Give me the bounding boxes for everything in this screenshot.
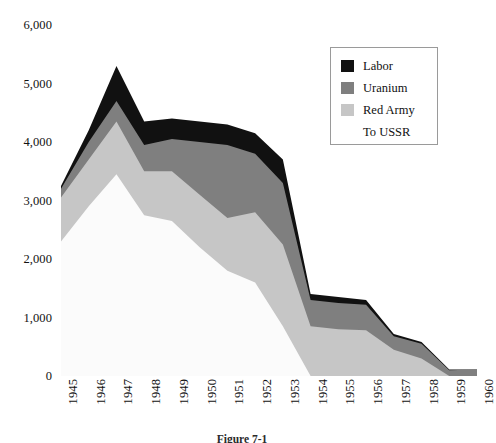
x-tick-label: 1955 xyxy=(343,379,357,429)
legend-label: Labor xyxy=(363,60,393,73)
y-tick-label: 6,000 xyxy=(0,19,52,32)
x-tick-label: 1958 xyxy=(427,379,441,429)
x-tick-label: 1954 xyxy=(316,379,330,429)
legend-swatch-icon xyxy=(341,82,354,94)
x-tick-label: 1953 xyxy=(288,379,302,429)
legend-swatch-icon xyxy=(341,104,354,116)
legend-label: Uranium xyxy=(363,82,407,95)
legend-label: Red Army xyxy=(363,104,415,117)
figure-caption: Figure 7-1 xyxy=(0,433,484,443)
y-tick-label: 3,000 xyxy=(0,195,52,208)
y-axis: 6,0005,0004,0003,0002,0001,0000 xyxy=(0,0,58,443)
x-tick-label: 1948 xyxy=(149,379,163,429)
x-tick-label: 1951 xyxy=(232,379,246,429)
legend-label: To USSR xyxy=(363,126,410,139)
x-tick-label: 1949 xyxy=(177,379,191,429)
x-tick-label: 1947 xyxy=(121,379,135,429)
legend-item-to-ussr: To USSR xyxy=(331,121,437,143)
y-tick-label: 1,000 xyxy=(0,312,52,325)
x-tick-label: 1946 xyxy=(94,379,108,429)
y-tick-label: 4,000 xyxy=(0,136,52,149)
legend-swatch-icon xyxy=(341,126,354,138)
x-tick-label: 1960 xyxy=(482,379,496,429)
x-tick-label: 1956 xyxy=(371,379,385,429)
x-tick-label: 1950 xyxy=(205,379,219,429)
y-tick-label: 0 xyxy=(0,370,52,383)
x-tick-label: 1957 xyxy=(399,379,413,429)
y-tick-label: 5,000 xyxy=(0,78,52,91)
chart-legend: LaborUraniumRed ArmyTo USSR xyxy=(330,47,438,145)
x-tick-label: 1959 xyxy=(454,379,468,429)
legend-item-uranium: Uranium xyxy=(331,77,437,99)
legend-swatch-icon xyxy=(341,60,354,72)
x-axis: 1945194619471948194919501951195219531954… xyxy=(61,379,477,429)
x-tick-label: 1945 xyxy=(66,379,80,429)
x-tick-label: 1952 xyxy=(260,379,274,429)
y-tick-label: 2,000 xyxy=(0,253,52,266)
legend-item-labor: Labor xyxy=(331,55,437,77)
legend-item-red-army: Red Army xyxy=(331,99,437,121)
